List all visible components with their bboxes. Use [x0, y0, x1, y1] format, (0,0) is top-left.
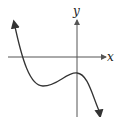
y-axis-label: y — [72, 4, 80, 18]
function-graph: x y — [0, 0, 118, 117]
function-curve — [14, 22, 100, 113]
x-axis-label: x — [107, 50, 114, 64]
curve-arrow-end — [99, 110, 100, 116]
